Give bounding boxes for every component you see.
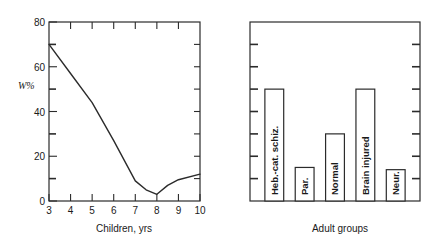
- figure-container: 0 20 40 60 80 3 4 5 6 7 8 9 10 W% Childr…: [0, 0, 436, 246]
- line-xtick-label-4: 4: [68, 205, 74, 216]
- line-x-bottom-ticks: [49, 194, 200, 201]
- line-ytick-label-0: 0: [39, 196, 45, 207]
- line-series-path: [49, 44, 200, 194]
- line-xtick-label-7: 7: [133, 205, 139, 216]
- bar-label-2: Normal: [329, 162, 340, 195]
- bar-x-axis-title: Adult groups: [312, 223, 368, 234]
- line-x-axis-title: Children, yrs: [96, 223, 152, 234]
- line-ytick-label-40: 40: [34, 107, 46, 118]
- line-ytick-label-20: 20: [34, 151, 46, 162]
- bar-y-right-ticks: [412, 44, 420, 178]
- bar-series-group: Heb.-cat. schiz.Par.NormalBrain injuredN…: [265, 89, 405, 201]
- figure-svg: 0 20 40 60 80 3 4 5 6 7 8 9 10 W% Childr…: [0, 0, 436, 246]
- line-x-top-ticks: [71, 22, 179, 29]
- line-y-right-ticks: [194, 44, 200, 178]
- bar-label-3: Brain injured: [360, 136, 371, 195]
- line-xtick-label-8: 8: [154, 205, 160, 216]
- line-xtick-label-5: 5: [89, 205, 95, 216]
- line-ytick-label-80: 80: [34, 17, 46, 28]
- bar-label-1: Par.: [299, 178, 310, 195]
- bar-y-left-ticks: [250, 44, 258, 178]
- line-y-axis-title: W%: [18, 80, 35, 91]
- bar-panel: Heb.-cat. schiz.Par.NormalBrain injuredN…: [250, 22, 420, 234]
- line-ytick-label-60: 60: [34, 62, 46, 73]
- bar-label-4: Neur.: [390, 171, 401, 195]
- line-xtick-label-3: 3: [46, 205, 52, 216]
- line-panel: 0 20 40 60 80 3 4 5 6 7 8 9 10 W% Childr…: [18, 17, 206, 234]
- line-plot-frame: [49, 22, 200, 201]
- line-xtick-label-6: 6: [111, 205, 117, 216]
- line-xtick-label-10: 10: [194, 205, 206, 216]
- bar-label-0: Heb.-cat. schiz.: [269, 126, 280, 195]
- line-xtick-label-9: 9: [176, 205, 182, 216]
